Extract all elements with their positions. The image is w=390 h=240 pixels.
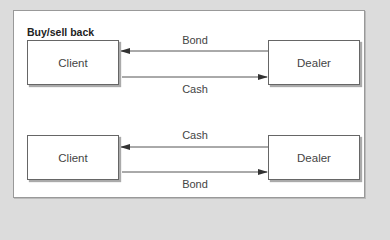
- leg2-client-label: Client: [58, 152, 87, 164]
- leg2-bottom-flow-label: Bond: [165, 178, 225, 190]
- leg1-dealer-label: Dealer: [297, 57, 331, 69]
- leg1-bottom-flow-label: Cash: [165, 83, 225, 95]
- leg2-dealer-label: Dealer: [297, 152, 331, 164]
- leg1-top-flow-label: Bond: [165, 34, 225, 46]
- leg1-dealer-box: Dealer: [268, 40, 360, 85]
- leg2-client-box: Client: [27, 135, 119, 180]
- leg2-dealer-box: Dealer: [268, 135, 360, 180]
- leg2-top-flow-label: Cash: [165, 129, 225, 141]
- leg1-client-label: Client: [58, 57, 87, 69]
- leg1-client-box: Client: [27, 40, 119, 85]
